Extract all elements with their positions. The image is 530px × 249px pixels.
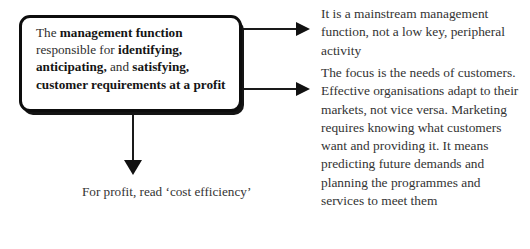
caption-text: For profit, read ‘cost efficiency’ <box>82 183 252 201</box>
arrow-to-callout-2-head-icon <box>296 82 310 96</box>
callout-text-1: It is a mainstream management function, … <box>321 5 526 60</box>
definition-segment-2: responsible for <box>36 42 118 57</box>
diagram-canvas: The management function responsible for … <box>0 0 530 249</box>
arrow-to-callout-2-line <box>240 88 298 90</box>
definition-segment-3: identifying, <box>118 42 182 57</box>
definition-segment-0: The <box>36 25 60 40</box>
definition-box: The management function responsible for … <box>19 15 242 112</box>
definition-segment-1: management function <box>60 25 183 40</box>
arrow-to-callout-1-line <box>240 28 298 30</box>
arrow-to-caption-head-icon <box>124 160 142 175</box>
definition-box-text: The management function responsible for … <box>36 24 230 93</box>
definition-segment-5: anticipating, <box>36 59 107 74</box>
definition-segment-6: and <box>107 59 133 74</box>
arrow-to-callout-1-head-icon <box>296 22 310 36</box>
arrow-to-caption-line <box>132 110 134 162</box>
callout-text-2: The focus is the needs of customers. Eff… <box>321 64 526 210</box>
